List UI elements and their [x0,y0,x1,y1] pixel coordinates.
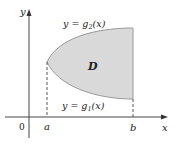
region-diagram: y x 0 a b D y = g2(x) y = g1(x) [0,0,181,146]
y-axis-label: y [19,6,26,17]
upper-curve-label: y = g2(x) [62,18,106,31]
upper-label-suffix: (x) [93,18,106,29]
point-b-label: b [130,122,136,133]
point-a-label: a [44,121,50,132]
lower-label-prefix: y = g [61,100,87,111]
y-axis-arrow-icon [27,9,32,16]
lower-curve-label: y = g1(x) [61,100,105,113]
origin-label: 0 [19,122,25,132]
lower-label-suffix: (x) [92,100,105,111]
x-axis-arrow-icon [161,115,168,120]
upper-label-prefix: y = g [62,18,88,29]
region-label: D [87,60,98,73]
x-axis-label: x [162,122,168,133]
